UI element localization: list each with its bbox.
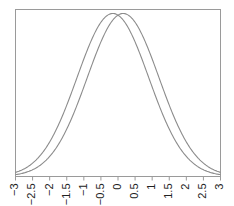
x-tick-label: −1.5 [60,184,72,206]
x-tick-label: −3 [8,184,20,197]
curve-left-line [16,13,221,174]
x-axis: −3−2.5−2−1.5−1−0.500.511.522.53 [8,177,225,206]
x-tick-label: −1 [77,184,89,197]
x-tick-label: 3 [213,184,225,190]
x-tick-label: 2 [179,184,191,190]
x-tick-label: 0 [111,184,123,190]
x-tick-label: 0.5 [128,184,140,199]
curves-group [16,13,221,174]
x-tick-label: 1.5 [162,184,174,199]
x-tick-label: 1 [145,184,157,190]
curve-right-line [16,13,221,174]
x-tick-label: 2.5 [196,184,208,199]
x-tick-label: −2.5 [25,184,37,206]
x-tick-label: −2 [43,184,55,197]
plot-frame [16,10,221,177]
density-chart: −3−2.5−2−1.5−1−0.500.511.522.53 [0,0,234,206]
x-tick-label: −0.5 [94,184,106,206]
